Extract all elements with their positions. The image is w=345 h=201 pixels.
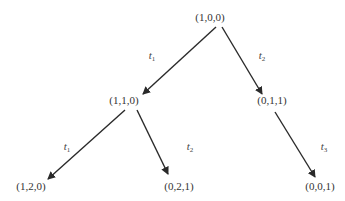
- edge-label-t2-bottom: t2: [187, 140, 194, 156]
- node-0-2-1: (0,2,1): [164, 180, 193, 192]
- label-subscript: 1: [67, 146, 71, 154]
- edge-label-t3: t3: [321, 140, 328, 156]
- edge-n1-n4: [137, 110, 168, 174]
- label-subscript: 2: [262, 55, 266, 63]
- edge-label-t1-top: t1: [149, 49, 156, 65]
- edge-label-t1-bottom: t1: [64, 140, 71, 156]
- label-subscript: 3: [324, 146, 328, 154]
- label-subscript: 2: [190, 146, 194, 154]
- reachability-tree-diagram: (1,0,0) (1,1,0) (0,1,1) (1,2,0) (0,2,1) …: [0, 0, 345, 201]
- node-0-0-1: (0,0,1): [305, 180, 334, 192]
- edge-label-t2-top: t2: [259, 49, 266, 65]
- edge-n2-n5: [275, 112, 315, 177]
- node-1-0-0: (1,0,0): [195, 11, 224, 23]
- edge-n0-n2: [222, 27, 262, 94]
- node-1-2-0: (1,2,0): [16, 180, 45, 192]
- node-0-1-1: (0,1,1): [257, 94, 286, 106]
- edges-layer: [0, 0, 345, 201]
- edge-n1-n3: [48, 110, 125, 179]
- node-1-1-0: (1,1,0): [109, 94, 138, 106]
- label-subscript: 1: [152, 55, 156, 63]
